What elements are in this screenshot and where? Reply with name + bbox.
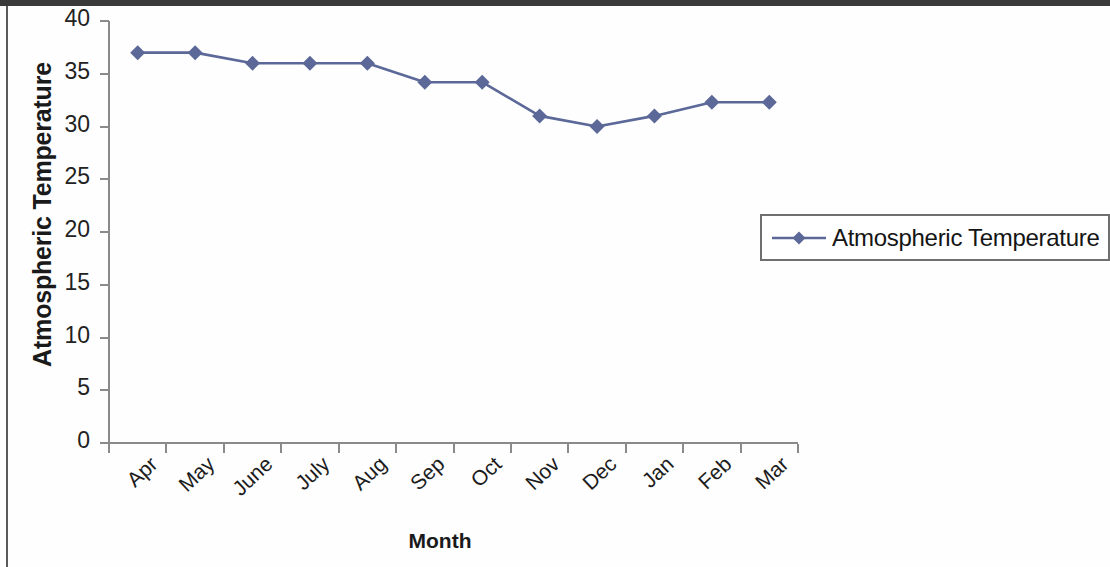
y-tick-label: 35	[32, 58, 90, 85]
y-tick	[100, 337, 109, 339]
data-point-marker	[762, 95, 777, 110]
data-point-marker	[704, 95, 719, 110]
x-tick	[740, 444, 742, 453]
y-tick-label: 25	[32, 163, 90, 190]
y-tick-label: 5	[32, 374, 90, 401]
x-tick	[165, 444, 167, 453]
y-tick-label: 15	[32, 269, 90, 296]
data-point-marker	[188, 45, 203, 60]
x-tick	[625, 444, 627, 453]
data-point-marker	[302, 56, 317, 71]
series-markers	[130, 45, 777, 134]
x-tick	[453, 444, 455, 453]
series-line-atmospheric-temperature	[138, 53, 770, 127]
scanned-page: Atmospheric Temperature Month 0510152025…	[0, 0, 1110, 567]
data-point-marker	[417, 75, 432, 90]
y-tick-label: 20	[32, 216, 90, 243]
y-tick	[100, 73, 109, 75]
data-point-marker	[245, 56, 260, 71]
y-tick-label: 0	[32, 427, 90, 454]
data-point-marker	[532, 108, 547, 123]
chart-legend: Atmospheric Temperature	[760, 214, 1110, 261]
x-tick	[108, 444, 110, 453]
y-tick	[100, 178, 109, 180]
y-tick-label: 30	[32, 111, 90, 138]
line-chart: Atmospheric Temperature Month 0510152025…	[0, 0, 1110, 567]
data-point-marker	[647, 108, 662, 123]
y-tick	[100, 20, 109, 22]
data-point-marker	[360, 56, 375, 71]
x-tick	[280, 444, 282, 453]
data-point-marker	[475, 75, 490, 90]
x-tick	[395, 444, 397, 453]
y-tick-label: 40	[32, 5, 90, 32]
series-layer	[0, 0, 1110, 567]
data-point-marker	[130, 45, 145, 60]
y-tick	[100, 231, 109, 233]
legend-entry-label: Atmospheric Temperature	[832, 224, 1099, 252]
y-tick	[100, 284, 109, 286]
x-tick	[338, 444, 340, 453]
legend-marker-icon	[772, 229, 826, 247]
x-tick	[223, 444, 225, 453]
x-tick	[567, 444, 569, 453]
y-tick-label: 10	[32, 322, 90, 349]
y-tick	[100, 126, 109, 128]
x-tick	[510, 444, 512, 453]
x-tick	[682, 444, 684, 453]
data-point-marker	[590, 119, 605, 134]
y-tick	[100, 389, 109, 391]
x-tick	[797, 444, 799, 453]
